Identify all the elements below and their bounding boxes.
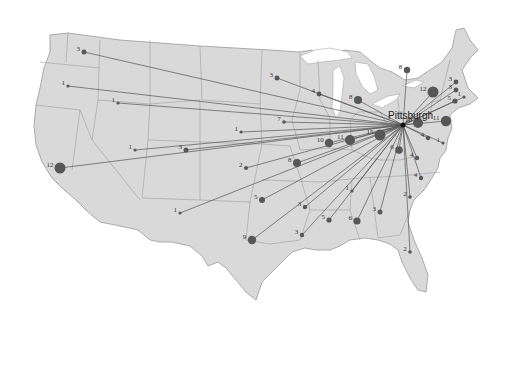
origin-dot bbox=[452, 98, 457, 103]
origin-count-label: 3 bbox=[449, 83, 453, 91]
origin-dot bbox=[408, 195, 412, 199]
origin-dot bbox=[248, 236, 256, 244]
origin-count-label: 1 bbox=[111, 96, 115, 104]
origin-count-label: 2 bbox=[403, 245, 407, 253]
origin-count-label: 2 bbox=[239, 161, 243, 169]
origin-count-label: 1 bbox=[436, 136, 440, 144]
origin-dot bbox=[404, 67, 410, 73]
origin-count-label: 8 bbox=[349, 93, 353, 101]
origin-count-label: 1 bbox=[345, 184, 349, 192]
origin-count-label: 3 bbox=[270, 71, 274, 79]
origin-count-label: 5 bbox=[447, 94, 451, 102]
origin-dot bbox=[239, 130, 242, 133]
origin-count-label: 12 bbox=[47, 161, 55, 169]
origin-dot bbox=[184, 148, 189, 153]
origin-dot bbox=[303, 205, 307, 209]
hub-label: Pittsburgh bbox=[388, 110, 433, 121]
origin-count-label: 3 bbox=[373, 205, 377, 213]
origin-count-label: 5 bbox=[321, 213, 325, 221]
origin-count-label: 1 bbox=[173, 206, 177, 214]
origin-count-label: 1 bbox=[457, 90, 461, 98]
origin-count-label: 4 bbox=[312, 87, 316, 95]
origin-dot bbox=[353, 217, 360, 224]
origin-count-label: 2 bbox=[403, 190, 407, 198]
origin-dot bbox=[300, 233, 304, 237]
origin-dot bbox=[317, 92, 322, 97]
origin-dot bbox=[326, 217, 331, 222]
origin-dot bbox=[133, 148, 136, 151]
origin-dot bbox=[415, 156, 419, 160]
origin-dot bbox=[259, 197, 265, 203]
origin-count-label: 1 bbox=[234, 125, 238, 133]
origin-count-label: 3 bbox=[77, 45, 81, 53]
origin-dot bbox=[378, 210, 383, 215]
origin-dot bbox=[282, 120, 286, 124]
origin-count-label: 9 bbox=[243, 233, 247, 241]
us-landmass bbox=[34, 28, 478, 300]
origin-dot bbox=[375, 130, 386, 141]
origin-count-label: 12 bbox=[420, 85, 428, 93]
origin-dot bbox=[275, 76, 280, 81]
origin-count-label: 3 bbox=[298, 200, 302, 208]
origin-dot bbox=[395, 146, 403, 154]
origin-dot bbox=[82, 50, 87, 55]
origin-count-label: 10 bbox=[317, 136, 325, 144]
origin-dot bbox=[116, 101, 119, 104]
origin-dot bbox=[350, 189, 353, 192]
origin-count-label: 4 bbox=[421, 131, 425, 139]
us-flow-map: 3111213119528734881011156442135632312101… bbox=[0, 0, 523, 370]
origin-count-label: 4 bbox=[410, 151, 414, 159]
origin-dot bbox=[441, 141, 444, 144]
hub-marker bbox=[401, 123, 406, 128]
origin-dot bbox=[178, 211, 181, 214]
origin-count-label: 7 bbox=[277, 115, 281, 123]
origin-dot bbox=[293, 159, 301, 167]
origin-dot bbox=[244, 166, 248, 170]
origin-count-label: 3 bbox=[449, 75, 453, 83]
origin-count-label: 5 bbox=[254, 193, 258, 201]
origin-count-label: 6 bbox=[390, 143, 394, 151]
origin-dot bbox=[462, 95, 465, 98]
origin-dot bbox=[354, 96, 362, 104]
origin-count-label: 3 bbox=[295, 228, 299, 236]
origin-dot bbox=[55, 163, 66, 174]
origin-dot bbox=[454, 80, 459, 85]
origin-dot bbox=[441, 116, 451, 126]
origin-count-label: 3 bbox=[179, 143, 183, 151]
origin-dot bbox=[325, 139, 333, 147]
origin-dot bbox=[408, 250, 412, 254]
origin-dot bbox=[345, 135, 355, 145]
origin-dot bbox=[428, 87, 439, 98]
origin-count-label: 1 bbox=[61, 79, 65, 87]
origin-count-label: 8 bbox=[288, 156, 292, 164]
origin-count-label: 11 bbox=[337, 133, 344, 141]
origin-count-label: 4 bbox=[414, 171, 418, 179]
origin-dot bbox=[426, 136, 430, 140]
origin-count-label: 1 bbox=[128, 143, 132, 151]
origin-dot bbox=[419, 176, 423, 180]
origin-count-label: 8 bbox=[399, 63, 403, 71]
origin-count-label: 11 bbox=[433, 114, 440, 122]
origin-count-label: 15 bbox=[367, 128, 375, 136]
origin-count-label: 6 bbox=[348, 214, 352, 222]
origin-dot bbox=[66, 84, 69, 87]
